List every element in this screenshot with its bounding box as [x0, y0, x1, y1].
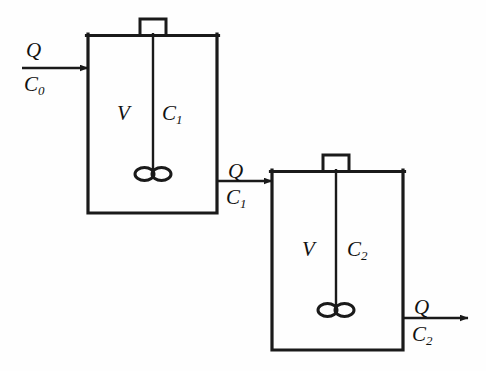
process-flow-diagram: Q C0 V C1 Q C1 V C2 Q C2 [0, 0, 486, 371]
feed-flow-label: Q [26, 40, 41, 61]
tank-2-volume-label: V [302, 239, 315, 260]
product-conc-subscript: 2 [426, 333, 433, 348]
tank-2-vessel [271, 155, 405, 350]
product-flow-symbol: Q [414, 295, 429, 319]
tank-2-concentration-label: C2 [347, 239, 368, 260]
tank-2-conc-subscript: 2 [361, 248, 368, 263]
tank-2-conc-symbol: C [347, 237, 361, 261]
intermediate-flow-symbol: Q [228, 159, 243, 183]
feed-flow-symbol: Q [26, 38, 41, 62]
feed-conc-subscript: 0 [38, 83, 45, 98]
product-concentration-label: C2 [412, 324, 433, 345]
intermediate-conc-subscript: 1 [240, 196, 247, 211]
feed-concentration-label: C0 [24, 74, 45, 95]
intermediate-concentration-label: C1 [226, 187, 247, 208]
tank-1-volume-label: V [117, 103, 130, 124]
tank-2-volume-symbol: V [302, 237, 315, 261]
intermediate-flow-label: Q [228, 161, 243, 182]
intermediate-conc-symbol: C [226, 185, 240, 209]
tank-1-vessel [87, 19, 219, 213]
product-flow-label: Q [414, 297, 429, 318]
tank-1-conc-symbol: C [162, 101, 176, 125]
tank-1-volume-symbol: V [117, 101, 130, 125]
tank-1-concentration-label: C1 [162, 103, 183, 124]
feed-conc-symbol: C [24, 72, 38, 96]
tank-2-walls [272, 170, 403, 350]
tank-1-conc-subscript: 1 [176, 112, 183, 127]
product-conc-symbol: C [412, 322, 426, 346]
